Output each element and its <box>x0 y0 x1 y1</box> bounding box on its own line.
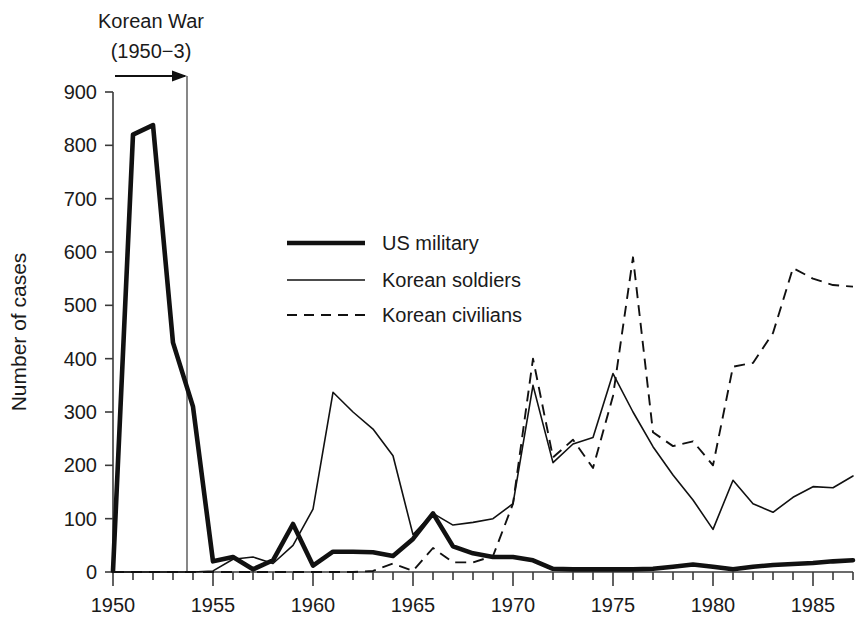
x-tick-label-1965: 1965 <box>391 594 436 616</box>
x-tick-label-1980: 1980 <box>691 594 736 616</box>
korean-war-label-line1: Korean War <box>98 10 204 32</box>
y-tick-label-700: 700 <box>64 188 97 210</box>
y-tick-label-400: 400 <box>64 348 97 370</box>
x-tick-label-1950: 1950 <box>91 594 136 616</box>
y-tick-label-800: 800 <box>64 134 97 156</box>
legend-label-korean-civilians: Korean civilians <box>382 304 522 326</box>
y-tick-label-100: 100 <box>64 508 97 530</box>
y-tick-label-500: 500 <box>64 294 97 316</box>
y-tick-label-200: 200 <box>64 454 97 476</box>
chart-figure: 0100200300400500600700800900 19501955196… <box>0 0 863 635</box>
legend-label-us-military: US military <box>382 232 479 254</box>
x-tick-label-1985: 1985 <box>791 594 836 616</box>
x-tick-label-1960: 1960 <box>291 594 336 616</box>
line-chart: 0100200300400500600700800900 19501955196… <box>0 0 863 635</box>
x-tick-label-1955: 1955 <box>191 594 236 616</box>
y-tick-label-900: 900 <box>64 81 97 103</box>
x-tick-label-1970: 1970 <box>491 594 536 616</box>
y-tick-label-300: 300 <box>64 401 97 423</box>
y-tick-label-600: 600 <box>64 241 97 263</box>
x-tick-label-1975: 1975 <box>591 594 636 616</box>
y-axis-title: Number of cases <box>7 253 30 412</box>
korean-war-label-line2: (1950−3) <box>111 40 192 62</box>
y-tick-label-0: 0 <box>86 561 97 583</box>
legend-label-korean-soldiers: Korean soldiers <box>382 269 521 291</box>
